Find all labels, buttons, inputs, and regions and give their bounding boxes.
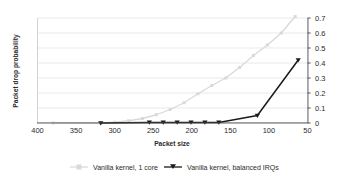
data-point-marker-s0-3: [127, 119, 130, 122]
y-tick-label-1: 0.1: [315, 104, 325, 113]
data-point-marker-s0-13: [266, 44, 269, 47]
plot-left-border: [37, 18, 38, 123]
y-tick-mark-1: [308, 108, 311, 109]
y-tick-mark-7: [308, 18, 311, 19]
data-point-marker-s0-14: [280, 32, 283, 35]
y-tick-label-4: 0.4: [315, 59, 325, 68]
data-point-marker-s0-15: [294, 15, 297, 18]
gridline-y-7: [38, 18, 308, 19]
x-axis-line: [37, 123, 308, 124]
x-tick-label-7: 50: [303, 126, 311, 135]
legend-label-0: Vanilla kernel, 1 core: [93, 164, 158, 171]
x-tick-label-4: 200: [186, 126, 199, 135]
x-tick-label-0: 400: [31, 126, 44, 135]
data-point-marker-s0-11: [238, 66, 241, 69]
y-tick-label-5: 0.5: [315, 44, 325, 53]
y-axis-title: Packet drop probability: [12, 34, 20, 108]
y-tick-mark-3: [308, 78, 311, 79]
y-tick-mark-6: [308, 33, 311, 34]
chart-background: [0, 0, 342, 180]
data-point-marker-s0-5: [155, 113, 158, 116]
y-tick-label-7: 0.7: [315, 14, 325, 23]
x-tick-label-6: 100: [263, 126, 276, 135]
y-tick-label-3: 0.3: [315, 74, 325, 83]
y-tick-label-2: 0.2: [315, 89, 325, 98]
data-point-marker-s0-6: [169, 108, 172, 111]
gridline-y-6: [38, 33, 308, 34]
y-tick-label-0: 0: [315, 119, 319, 128]
packet-drop-probability-chart: 40035030025020015010050 Packet size 00.1…: [0, 0, 342, 180]
chart-container: 40035030025020015010050 Packet size 00.1…: [0, 0, 342, 180]
data-point-marker-s0-10: [224, 77, 227, 80]
data-point-marker-s0-7: [183, 101, 186, 104]
data-point-marker-s0-8: [196, 92, 199, 95]
y-axis-line: [308, 18, 309, 123]
y-tick-mark-5: [308, 48, 311, 49]
data-point-marker-s0-4: [141, 117, 144, 120]
data-point-marker-s0-12: [252, 54, 255, 57]
x-tick-label-5: 150: [224, 126, 237, 135]
y-tick-mark-2: [308, 93, 311, 94]
legend-marker-square-icon: [77, 165, 82, 170]
gridline-y-3: [38, 78, 308, 79]
x-tick-label-2: 300: [108, 126, 121, 135]
y-tick-mark-4: [308, 63, 311, 64]
y-tick-label-6: 0.6: [315, 29, 325, 38]
x-tick-label-1: 350: [70, 126, 83, 135]
x-tick-label-3: 250: [147, 126, 160, 135]
y-tick-mark-0: [308, 123, 311, 124]
gridline-y-4: [38, 63, 308, 64]
gridline-y-5: [38, 48, 308, 49]
data-point-marker-s0-9: [210, 84, 213, 87]
legend-label-1: Vanilla kernel, balanced IRQs: [187, 164, 279, 172]
x-axis-title: Packet size: [154, 140, 190, 147]
gridline-y-2: [38, 93, 308, 94]
